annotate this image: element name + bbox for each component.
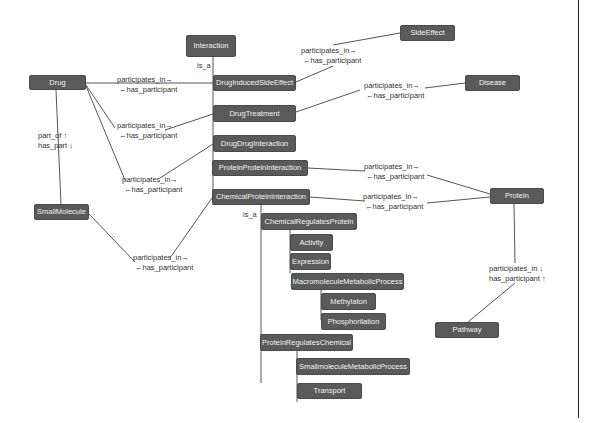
edge-label-has-participant: ←has_participant [124, 185, 182, 195]
edge-label-has-participant: ←has_participant [119, 85, 177, 95]
node-side-effect[interactable]: SideEffect [400, 25, 455, 41]
edge-label-participates-in: participates_in→ [133, 253, 189, 263]
edge-label-is-a: is_a [243, 210, 257, 220]
node-chemical-protein-interaction[interactable]: ChemicalProteinInteraction [212, 189, 310, 205]
node-methylaton[interactable]: Methylaton [321, 293, 376, 310]
node-drug[interactable]: Drug [29, 75, 86, 90]
page-border [578, 0, 579, 418]
node-protein-regulates-chemical[interactable]: ProteinRegulatesChemical [260, 334, 353, 351]
node-pathway[interactable]: Pathway [435, 322, 499, 338]
edge-label-participates-in: participates_in→ [122, 175, 178, 185]
node-protein-protein-interaction[interactable]: ProteinProteinInteraction [212, 160, 308, 176]
node-drug-drug-interaction[interactable]: DrugDrugInteraction [213, 135, 296, 152]
node-transport[interactable]: Transport [297, 383, 362, 399]
node-protein[interactable]: Protein [490, 188, 544, 204]
node-drug-treatment[interactable]: DrugTreatment [213, 105, 296, 122]
edge-label-has-participant: ←has_participant [303, 56, 361, 66]
edge-label-participates-in: participates_in→ [117, 121, 173, 131]
ontology-diagram: Interaction Drug SmallMolecule DrugInduc… [0, 0, 593, 423]
edge-label-participates-in: participates_in ↓ [489, 264, 543, 274]
node-activity[interactable]: Activity [290, 234, 333, 251]
node-expression[interactable]: Expression [290, 253, 331, 270]
node-macromolecule-metabolic-process[interactable]: MacromoleculeMetabolicProcess [291, 273, 404, 290]
node-phosphorilation[interactable]: Phosphorilation [321, 313, 386, 330]
edge-label-has-participant: ←has_participant [366, 172, 424, 182]
node-interaction[interactable]: Interaction [186, 35, 236, 57]
edge-label-has-participant: ←has_participant [366, 91, 424, 101]
edge-label-has-participant: ←has_participant [365, 202, 423, 212]
edge-label-has-participant: has_participant ↑ [489, 274, 546, 284]
edge-label-participates-in: participates_in→ [301, 46, 357, 56]
edge-label-is-a: is_a [197, 61, 211, 71]
edge-label-participates-in: participates_in→ [117, 75, 173, 85]
node-disease[interactable]: Disease [465, 75, 520, 91]
edge-label-part-of: part_of ↑ [38, 131, 67, 141]
edge-label-has-part: has_part ↓ [38, 141, 73, 151]
node-chemical-regulates-protein[interactable]: ChemicalRegulatesProtein [261, 213, 357, 230]
node-small-molecule[interactable]: SmallMolecule [34, 204, 89, 220]
node-smallmolecule-metabolic-process[interactable]: SmallmoleculeMetabolicProcess [296, 358, 410, 375]
edge-label-has-participant: ←has_participant [119, 131, 177, 141]
edge-label-participates-in: participates_in→ [364, 162, 420, 172]
node-drug-induced-side-effect[interactable]: DrugInducedSideEffect [213, 75, 296, 91]
edge-label-participates-in: participates_in→ [363, 192, 419, 202]
edge-label-has-participant: ←has_participant [135, 263, 193, 273]
edge-label-participates-in: participates_in→ [364, 81, 420, 91]
